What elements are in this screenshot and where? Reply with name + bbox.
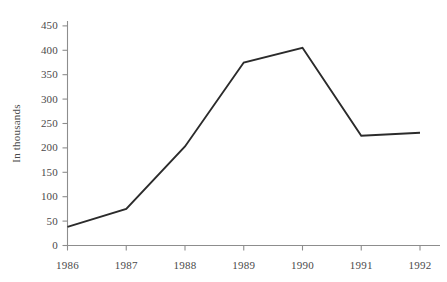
- x-tick-label: 1992: [398, 260, 442, 271]
- x-tick-label: 1990: [281, 260, 325, 271]
- x-tick-label: 1991: [339, 260, 383, 271]
- x-tick-label: 1987: [104, 260, 148, 271]
- x-axis-tick-labels: 1986198719881989199019911992: [0, 0, 447, 282]
- x-tick-label: 1986: [46, 260, 90, 271]
- x-tick-label: 1989: [222, 260, 266, 271]
- line-chart: 050100150200250300350400450 198619871988…: [0, 0, 447, 282]
- x-tick-label: 1988: [163, 260, 207, 271]
- y-axis-title: In thousands: [11, 84, 22, 184]
